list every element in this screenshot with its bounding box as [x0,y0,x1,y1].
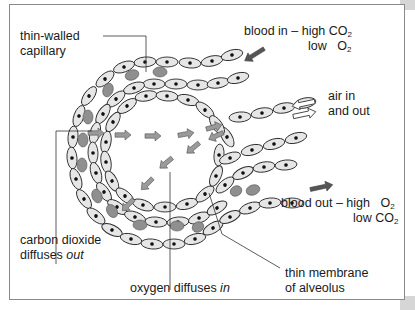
label-blood-out: blood out – high O2 low CO2 [281,196,398,226]
label-air-in-and-out: air in and out [328,89,370,119]
label-thin-membrane-of-alveolus: thin membrane of alveolus [285,266,368,296]
label-thin-walled-capillary: thin-walled capillary [20,29,80,59]
label-blood-in: blood in – high CO2 low O2 [244,24,352,54]
co2-arrow-icon [145,131,161,141]
label-carbon-dioxide-diffuses-out: carbon dioxide diffuses out [20,233,101,263]
alveolus-wall [99,89,317,213]
o2-arrow-icon [138,175,156,193]
air-out-arrow-icon [292,107,317,122]
co2-arrow-icon [115,130,131,140]
o2-arrow-icon [184,139,203,157]
blood-out-arrow-icon [309,180,334,195]
o2-arrow-icon [157,154,176,172]
co2-arrow-icon [177,128,194,141]
label-oxygen-diffuses-in: oxygen diffuses in [130,281,230,296]
